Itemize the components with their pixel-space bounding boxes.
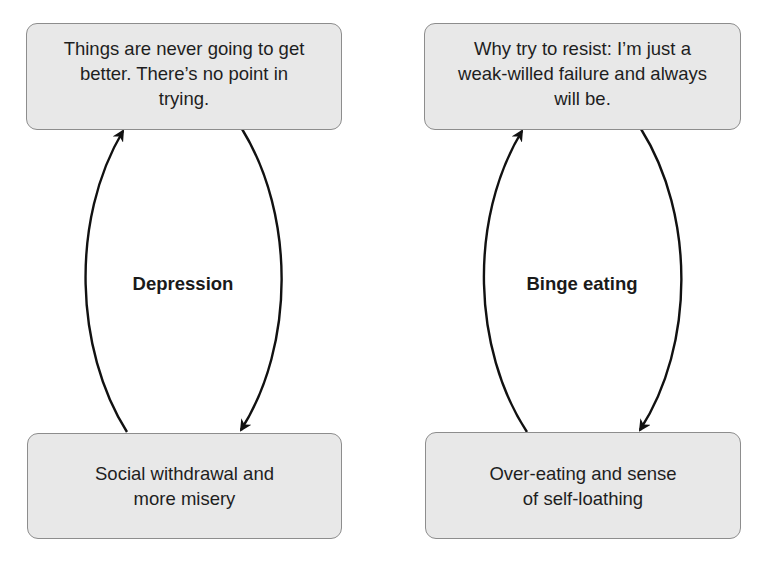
binge-eating-consequence-box: Over-eating and sense of self-loathing (425, 432, 741, 539)
text-line: trying. (159, 88, 209, 109)
arrow-down-icon (640, 129, 681, 430)
depression-cycle-label: Depression (133, 273, 234, 295)
depression-consequence-box: Social withdrawal and more misery (27, 433, 342, 539)
depression-consequence-text: Social withdrawal and more misery (95, 461, 274, 511)
binge-eating-consequence-text: Over-eating and sense of self-loathing (489, 461, 676, 511)
binge-eating-thought-box: Why try to resist: I’m just a weak-wille… (424, 23, 741, 130)
text-line: Over-eating and sense (489, 463, 676, 484)
text-line: Why try to resist: I’m just a (474, 38, 691, 59)
depression-thought-box: Things are never going to get better. Th… (26, 23, 342, 130)
diagram-canvas: Things are never going to get better. Th… (0, 0, 764, 561)
arrow-up-icon (86, 131, 127, 432)
text-line: will be. (554, 88, 611, 109)
text-line: better. There’s no point in (80, 63, 288, 84)
text-line: Social withdrawal and (95, 463, 274, 484)
binge-eating-thought-text: Why try to resist: I’m just a weak-wille… (458, 36, 707, 111)
arrow-up-icon (484, 131, 527, 432)
text-line: Things are never going to get (64, 38, 305, 59)
text-line: weak-willed failure and always (458, 63, 707, 84)
depression-thought-text: Things are never going to get better. Th… (64, 36, 305, 111)
text-line: more misery (134, 488, 236, 509)
arrow-down-icon (241, 129, 282, 430)
text-line: of self-loathing (523, 488, 643, 509)
binge-eating-cycle-label: Binge eating (526, 273, 637, 295)
